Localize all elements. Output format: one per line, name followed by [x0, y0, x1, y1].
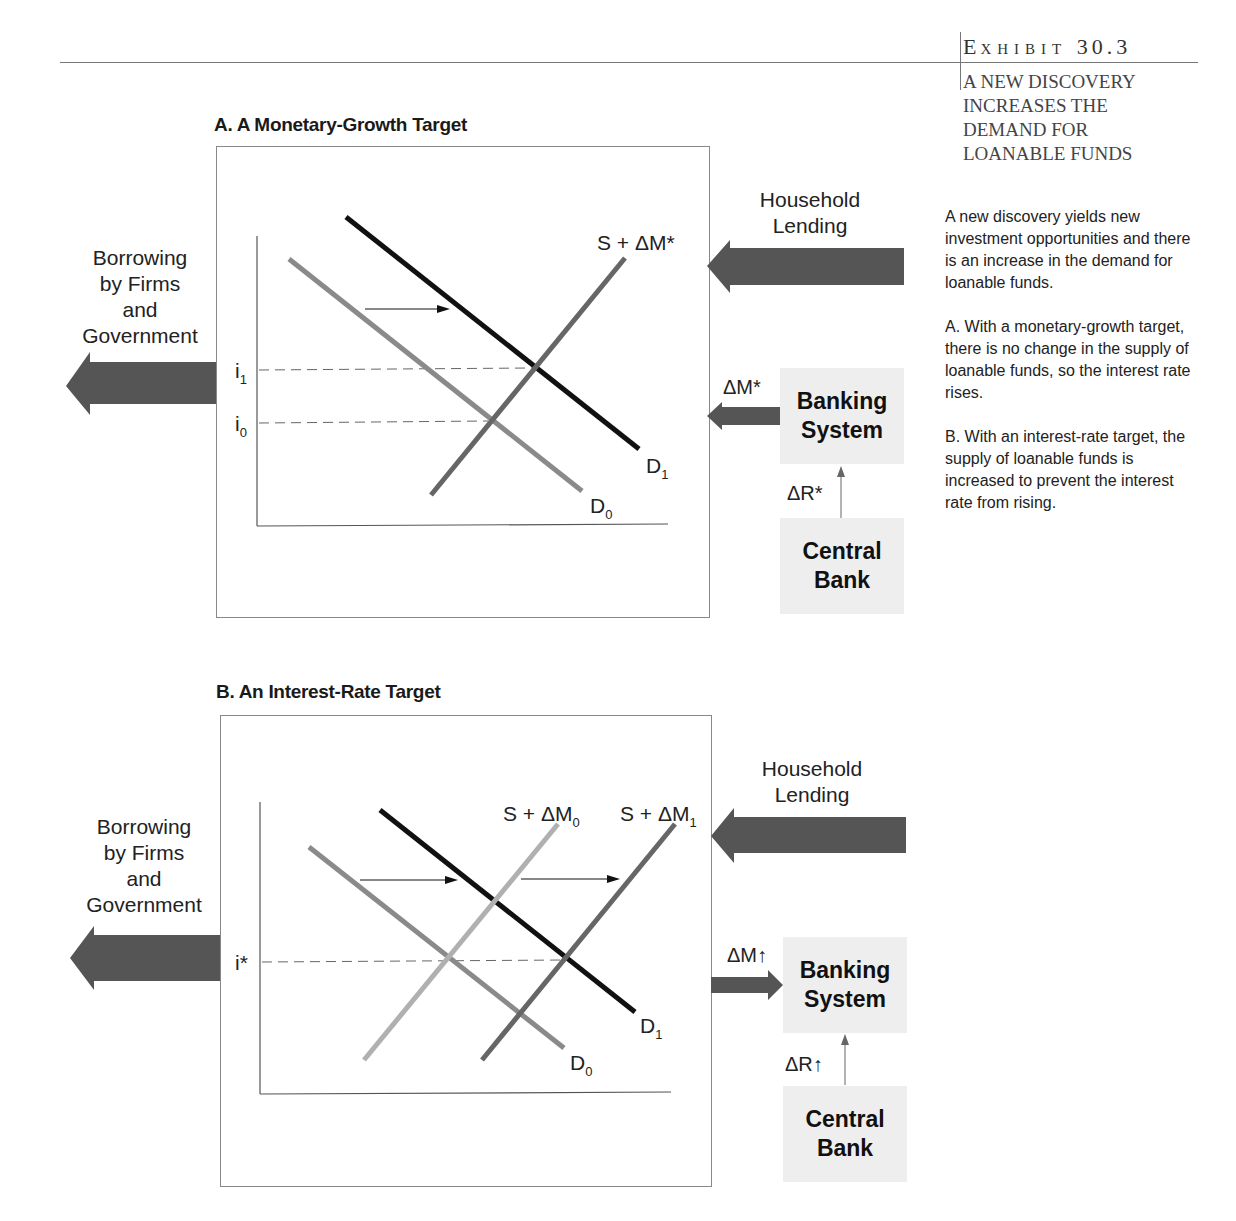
supply1-label: S + ΔM1 [620, 802, 697, 830]
d0-curve [309, 847, 564, 1048]
panel-b-banking-system-box: Banking System [783, 937, 907, 1033]
supply0-curve [364, 824, 558, 1060]
delta-r-arrow-head [841, 1034, 849, 1045]
demand-shift-arrow-head [445, 876, 458, 884]
supply0-label: S + ΔM0 [503, 802, 580, 830]
borrowing-arrow [70, 926, 220, 990]
panel-b-graph: S + ΔM0 S + ΔM1 D1 D0 i* ΔM↑ ΔR↑ [0, 0, 1236, 1221]
istar-label: i* [235, 951, 248, 974]
d1-label: D1 [640, 1014, 662, 1042]
panel-b-household-label: Household Lending [747, 756, 877, 808]
x-axis [260, 1092, 671, 1094]
delta-m-label: ΔM↑ [727, 944, 767, 966]
delta-m-arrow [711, 970, 783, 1000]
delta-r-label: ΔR↑ [785, 1053, 823, 1075]
household-lending-arrow [711, 808, 906, 863]
panel-b-borrowing-label: Borrowing by Firms and Government [84, 814, 204, 918]
panel-b-central-bank-box: Central Bank [783, 1086, 907, 1182]
istar-dashed-line [262, 960, 566, 962]
supply-shift-arrow-head [607, 875, 620, 883]
d0-label: D0 [570, 1051, 592, 1079]
d1-curve [380, 810, 635, 1012]
